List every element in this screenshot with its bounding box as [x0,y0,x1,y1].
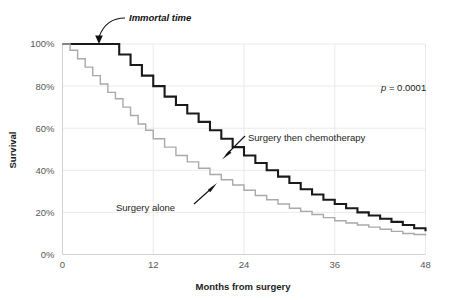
x-tick-label: 48 [420,259,431,270]
kaplan-meier-plot: 100%80%60%40%20%0% 012243648 Survival Mo… [0,0,458,300]
y-tick-label: 0% [41,249,55,260]
survival-chart-figure: 100%80%60%40%20%0% 012243648 Survival Mo… [0,0,458,300]
p-value-annotation: p = 0.0001 [380,82,426,93]
y-tick-label: 60% [35,123,55,134]
immortal-time-annotation: Immortal time [129,12,192,23]
surgery-alone-series-label: Surgery alone [116,202,175,213]
x-tick-label: 12 [148,259,159,270]
x-tick-label: 24 [239,259,250,270]
y-tick-label: 20% [35,207,55,218]
y-axis-title: Survival [7,132,18,169]
x-axis-title: Months from surgery [195,281,291,292]
y-tick-label: 80% [35,81,55,92]
y-tick-label: 100% [30,38,55,49]
y-tick-label: 40% [35,165,55,176]
p-value-number: = 0.0001 [386,82,426,93]
surgery-then-chemo-series-label: Surgery then chemotherapy [248,132,365,143]
x-tick-label: 0 [60,259,65,270]
x-tick-label: 36 [329,259,340,270]
